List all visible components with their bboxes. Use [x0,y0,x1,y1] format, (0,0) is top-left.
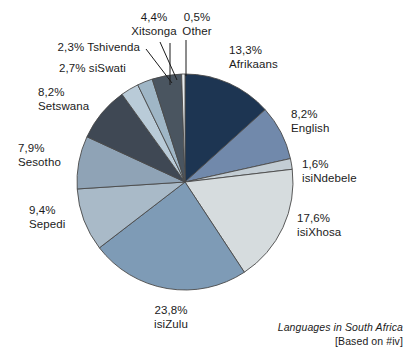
pie-label-siswati-name: siSwati [89,62,126,74]
pie-label-isindebele-name: isiNdebele [302,172,398,186]
pie-label-sepedi: 9,4% Sepedi [29,204,107,231]
pie-label-english-value: 8,2% [291,108,371,122]
pie-label-isixhosa: 17,6% isiXhosa [297,212,387,239]
pie-label-sepedi-value: 9,4% [29,204,107,218]
pie-label-isizulu-value: 23,8% [126,304,216,318]
pie-label-afrikaans-value: 13,3% [229,44,315,58]
pie-label-isizulu: 23,8% isiZulu [126,304,216,331]
pie-label-other-name: Other [171,25,223,39]
pie-label-sesotho-value: 7,9% [18,142,96,156]
pie-label-afrikaans: 13,3% Afrikaans [229,44,315,71]
caption-title: Languages in South Africa [278,320,403,334]
pie-label-setswana-value: 8,2% [38,86,124,100]
chart-caption: Languages in South Africa [Based on #iv] [278,320,403,349]
pie-label-sesotho-name: Sesotho [18,156,96,170]
pie-label-tshivenda: 2,3% Tshivenda [0,41,140,55]
pie-label-sepedi-name: Sepedi [29,218,107,232]
pie-label-isixhosa-name: isiXhosa [297,226,387,240]
pie-label-isindebele: 1,6% isiNdebele [302,158,398,185]
pie-label-afrikaans-name: Afrikaans [229,58,315,72]
pie-label-isindebele-value: 1,6% [302,158,398,172]
pie-label-siswati: 2,7% siSwati [0,62,126,76]
pie-label-siswati-value: 2,7% [59,62,86,74]
caption-source: [Based on #iv] [278,334,403,349]
pie-label-tshivenda-value: 2,3% [58,41,85,53]
pie-label-isizulu-name: isiZulu [126,318,216,332]
pie-label-english-name: English [291,122,371,136]
pie-label-setswana: 8,2% Setswana [38,86,124,113]
chart-page: 4,4% Xitsonga 0,5% Other 2,3% Tshivenda … [0,0,411,363]
pie-label-setswana-name: Setswana [38,100,124,114]
pie-label-isixhosa-value: 17,6% [297,212,387,226]
pie-label-sesotho: 7,9% Sesotho [18,142,96,169]
pie-label-tshivenda-name: Tshivenda [87,41,140,53]
pie-label-english: 8,2% English [291,108,371,135]
pie-label-other-value: 0,5% [171,11,223,25]
pie-label-other: 0,5% Other [171,11,223,38]
leader-line-tshivenda [160,42,177,80]
